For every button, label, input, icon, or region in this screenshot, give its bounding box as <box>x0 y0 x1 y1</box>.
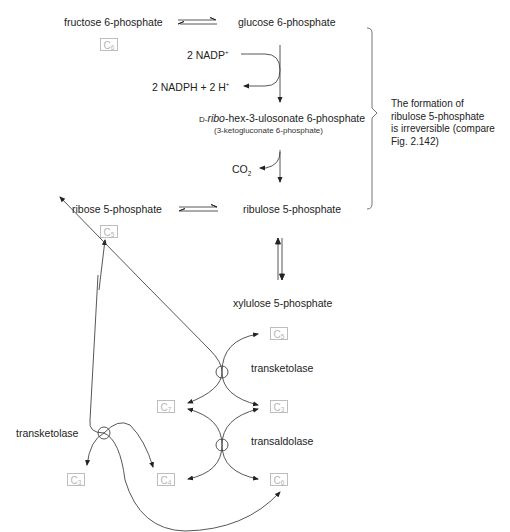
note-line-1: The formation of <box>391 98 510 111</box>
irreversibility-note: The formation of ribulose 5-phosphate is… <box>391 98 510 148</box>
note-line-4: Fig. 2.142) <box>391 136 510 149</box>
cofactor-nadp: 2 NADP+ <box>187 49 228 60</box>
cofactor-co2: CO2 <box>232 164 251 178</box>
nadp-nadph-curve <box>241 54 280 86</box>
nadp-text: 2 NADP <box>187 49 225 61</box>
co2-subscript: 2 <box>248 170 252 177</box>
pathway-connectors <box>0 0 510 532</box>
carbon-box-c6-bottom: C6 <box>270 473 288 486</box>
metabolite-ribose-5-phosphate: ribose 5-phosphate <box>72 204 162 215</box>
pentose-phosphate-diagram: fructose 6-phosphate glucose 6-phosphate… <box>0 0 510 532</box>
equilibrium-arrow-r5p-ru5p <box>179 205 218 212</box>
intermediate-suffix: -hex-3-ulosonate 6-phosphate <box>225 112 365 124</box>
metabolite-ribulose-5-phosphate: ribulose 5-phosphate <box>243 204 341 215</box>
metabolite-fructose-6-phosphate: fructose 6-phosphate <box>64 17 163 28</box>
carbon-box-c6-top: C6 <box>100 38 118 51</box>
nadph-text: 2 NADPH + 2 H <box>152 81 226 93</box>
brace <box>367 28 377 209</box>
carbon-box-c3-left: C3 <box>67 473 85 486</box>
carbon-box-c3-right: C3 <box>270 400 288 413</box>
note-line-2: ribulose 5-phosphate <box>391 111 510 124</box>
carbon-box-c7: C7 <box>157 400 175 413</box>
co2-text: CO <box>232 163 248 175</box>
metabolite-3-ketogluconate-alt: (3-ketogluconate 6-phosphate) <box>214 127 323 135</box>
nadp-charge: + <box>225 49 229 55</box>
note-line-3: is irreversible (compare <box>391 123 510 136</box>
cofactor-nadph: 2 NADPH + 2 H+ <box>152 81 229 92</box>
equilibrium-arrow-f6p-g6p <box>178 18 217 25</box>
enzyme-transaldolase: transaldolase <box>251 436 313 447</box>
co2-release-curve <box>260 152 280 168</box>
equilibrium-arrow-ru5p-xu5p <box>276 238 285 280</box>
enzyme-transketolase-left: transketolase <box>16 428 78 439</box>
ribo-italic: ribo <box>207 112 225 124</box>
enzyme-transketolase-right: transketolase <box>251 363 313 374</box>
metabolite-xylulose-5-phosphate: xylulose 5-phosphate <box>233 298 332 309</box>
metabolite-ribo-hex-ulosonate: D-ribo-hex-3-ulosonate 6-phosphate <box>199 113 365 124</box>
carbon-box-c5-xylulose: C5 <box>270 327 288 340</box>
proton-charge: + <box>226 81 230 87</box>
metabolite-glucose-6-phosphate: glucose 6-phosphate <box>238 17 336 28</box>
carbon-box-c5-ribose: C5 <box>100 225 118 238</box>
carbon-box-c4: C4 <box>157 473 175 486</box>
